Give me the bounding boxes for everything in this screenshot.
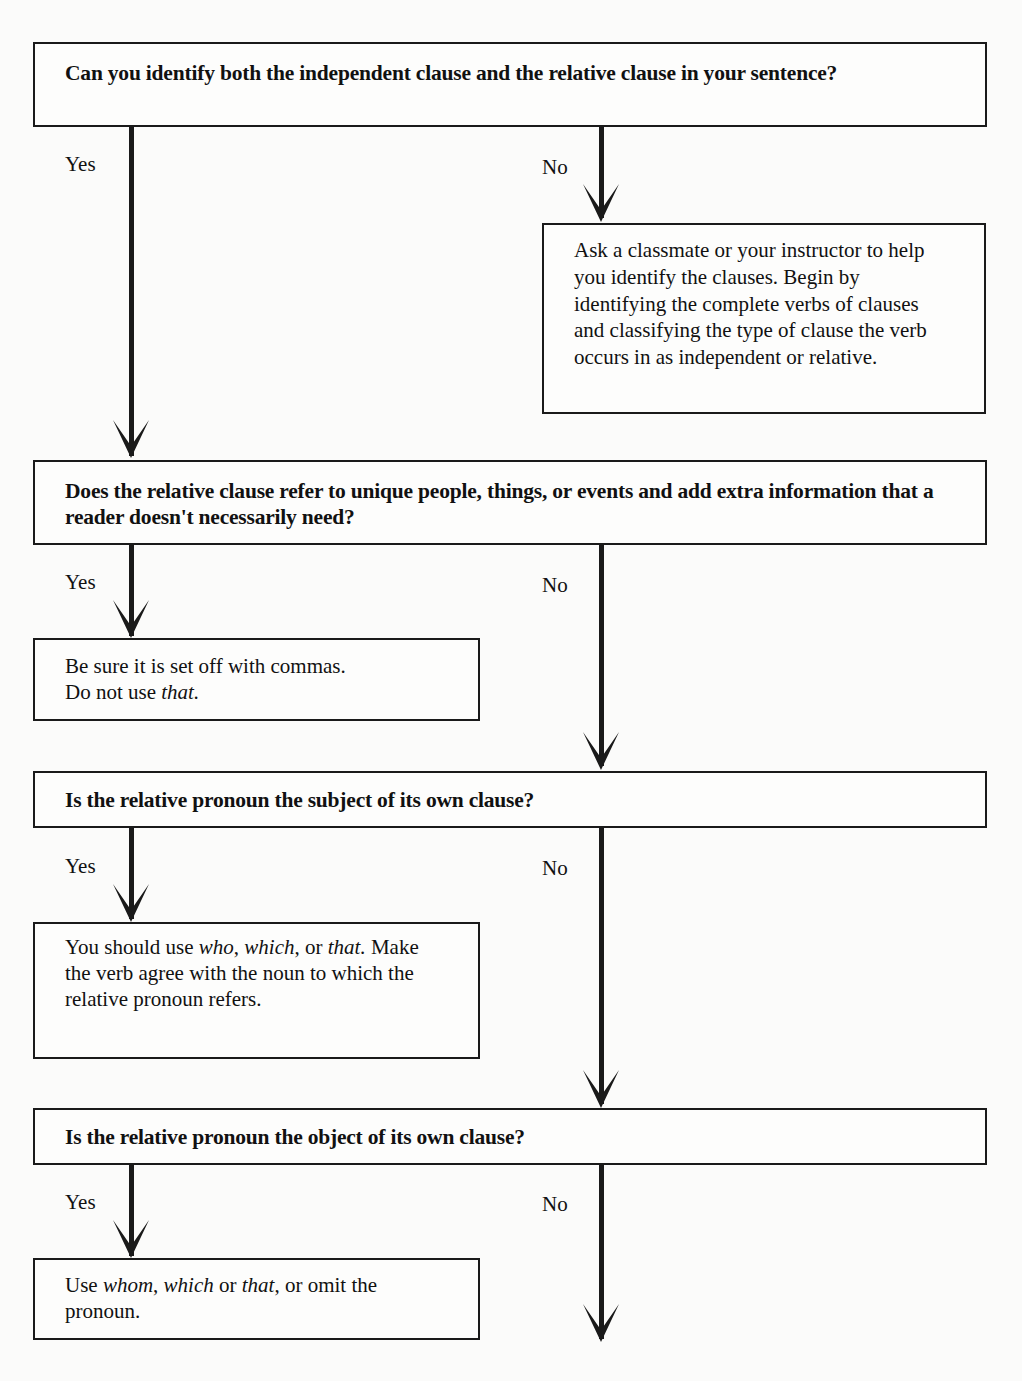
question-1-box: Can you identify both the independent cl… xyxy=(33,42,987,127)
question-4-box: Is the relative pronoun the object of it… xyxy=(33,1108,987,1165)
arrow-down-icon xyxy=(111,600,151,640)
arrow-down-icon xyxy=(581,732,621,772)
q4-yes-result-box: Use whom, which or that, or omit the pro… xyxy=(33,1258,480,1340)
q3-yes-label: Yes xyxy=(65,854,96,879)
arrow-down-icon xyxy=(111,884,151,924)
q1-yes-label: Yes xyxy=(65,152,96,177)
arrow-down-icon xyxy=(581,1304,621,1344)
q4-no-label: No xyxy=(542,1192,568,1217)
q3-yes-result-box: You should use who, which, or that. Make… xyxy=(33,922,480,1059)
question-2-box: Does the relative clause refer to unique… xyxy=(33,460,987,545)
arrow-down-icon xyxy=(111,1220,151,1260)
q2-no-label: No xyxy=(542,573,568,598)
q2-yes-result-box: Be sure it is set off with commas. Do no… xyxy=(33,638,480,721)
question-3-box: Is the relative pronoun the subject of i… xyxy=(33,771,987,828)
q3-yes-result-text: You should use who, which, or that. Make… xyxy=(65,935,419,1011)
q2-line2-prefix: Do not use xyxy=(65,680,161,704)
q2-line2-italic: that. xyxy=(161,680,199,704)
q1-no-result-text: Ask a classmate or your instructor to he… xyxy=(574,238,927,369)
arrow-down-icon xyxy=(581,184,621,224)
arrow-down-icon xyxy=(581,1070,621,1110)
question-2-text: Does the relative clause refer to unique… xyxy=(65,479,933,529)
q4-yes-label: Yes xyxy=(65,1190,96,1215)
q2-yes-result-line2: Do not use that. xyxy=(65,679,448,705)
question-3-text: Is the relative pronoun the subject of i… xyxy=(65,788,534,812)
q1-no-result-box: Ask a classmate or your instructor to he… xyxy=(542,223,986,414)
q3-no-label: No xyxy=(542,856,568,881)
arrow-down-icon xyxy=(111,420,151,460)
q4-yes-result-text: Use whom, which or that, or omit the pro… xyxy=(65,1273,377,1323)
q2-yes-label: Yes xyxy=(65,570,96,595)
q3-no-connector xyxy=(599,827,604,1104)
question-1-text: Can you identify both the independent cl… xyxy=(65,61,837,85)
question-4-text: Is the relative pronoun the object of it… xyxy=(65,1125,525,1149)
q2-yes-result-line1: Be sure it is set off with commas. xyxy=(65,653,448,679)
q1-no-label: No xyxy=(542,155,568,180)
q1-yes-connector xyxy=(129,126,134,456)
